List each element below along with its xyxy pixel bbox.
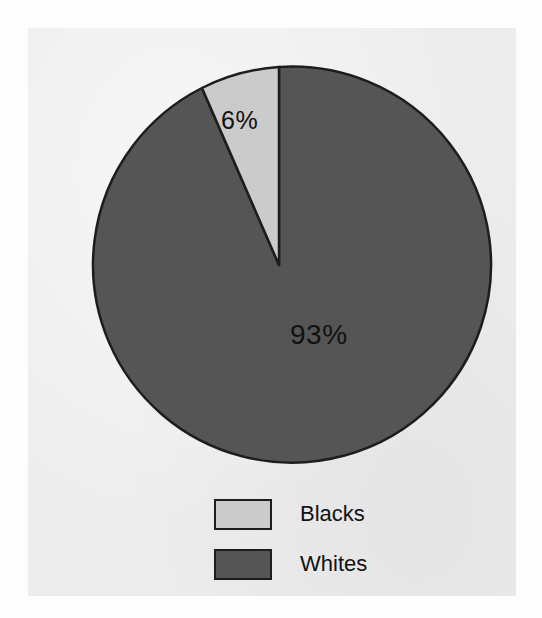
legend-item-whites[interactable]: Whites <box>214 547 424 581</box>
legend-item-blacks[interactable]: Blacks <box>214 497 424 531</box>
chart-page: 6% 93% Blacks Whites <box>0 0 542 618</box>
legend-label-blacks: Blacks <box>300 501 365 527</box>
chart-legend: Blacks Whites <box>214 497 424 597</box>
pie-slice-whites[interactable] <box>93 67 491 463</box>
pie-label-blacks-percent: 6% <box>221 106 258 135</box>
pie-label-whites-percent: 93% <box>290 319 348 351</box>
legend-swatch-whites <box>214 549 272 580</box>
legend-swatch-blacks <box>214 499 272 530</box>
legend-label-whites: Whites <box>300 551 367 577</box>
